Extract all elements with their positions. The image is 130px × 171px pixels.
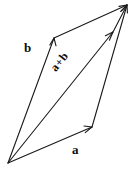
vector-a-label: a xyxy=(72,143,79,156)
vector-diagram-canvas xyxy=(0,0,130,171)
diagram-background xyxy=(0,0,130,171)
vector-diagram: b a a+b xyxy=(0,0,130,171)
vector-b-label: b xyxy=(24,41,31,54)
